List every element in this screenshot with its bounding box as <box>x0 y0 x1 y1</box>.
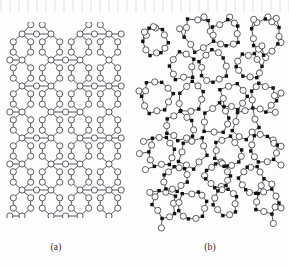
silicon-atom-node <box>174 78 177 81</box>
silicon-atom-node <box>212 39 215 42</box>
silicon-atom-node <box>264 17 267 20</box>
silicon-atom-node <box>178 92 181 95</box>
silicon-atom-node <box>150 203 153 206</box>
silicon-atom-node <box>250 27 253 30</box>
oxygen-atom-node <box>268 102 274 108</box>
oxygen-atom-node <box>19 57 25 63</box>
oxygen-atom-node <box>10 75 16 81</box>
oxygen-atom-node <box>48 187 54 193</box>
oxygen-atom-node <box>242 108 248 114</box>
silicon-atom-node <box>182 35 185 38</box>
oxygen-atom-node <box>278 205 284 211</box>
silicon-atom-node <box>160 81 163 84</box>
oxygen-atom-node <box>201 205 207 211</box>
oxygen-atom-node <box>86 205 92 211</box>
silicon-atom-node <box>147 27 150 30</box>
oxygen-atom-node <box>7 213 13 218</box>
oxygen-atom-node <box>86 195 92 201</box>
oxygen-atom-node <box>254 56 260 62</box>
oxygen-atom-node <box>259 43 265 49</box>
oxygen-atom-node <box>184 171 190 177</box>
oxygen-atom-node <box>189 64 195 70</box>
oxygen-atom-node <box>39 143 45 149</box>
silicon-atom-node <box>234 210 237 213</box>
oxygen-atom-node <box>257 106 263 112</box>
oxygen-atom-node <box>10 39 16 45</box>
oxygen-atom-node <box>68 91 74 97</box>
silicon-atom-node <box>177 160 180 163</box>
oxygen-atom-node <box>261 208 267 214</box>
oxygen-atom-node <box>229 162 235 168</box>
oxygen-atom-node <box>115 153 121 159</box>
oxygen-atom-node <box>57 127 63 133</box>
silicon-atom-node <box>253 134 256 137</box>
oxygen-atom-node <box>39 91 45 97</box>
oxygen-atom-node <box>39 75 45 81</box>
oxygen-atom-node <box>273 193 279 199</box>
silicon-atom-node <box>257 160 260 163</box>
silicon-atom-node <box>171 92 174 95</box>
oxygen-atom-node <box>68 49 74 55</box>
oxygen-atom-node <box>28 22 34 28</box>
oxygen-atom-node <box>28 91 34 97</box>
oxygen-atom-node <box>143 47 149 53</box>
silicon-atom-node <box>216 189 219 192</box>
silicon-atom-node <box>160 217 163 220</box>
oxygen-atom-node <box>150 24 156 30</box>
oxygen-atom-node <box>201 14 207 20</box>
oxygen-atom-node <box>161 32 167 38</box>
silicon-atom-node <box>201 90 204 93</box>
silicon-atom-node <box>257 126 260 129</box>
silicon-atom-node <box>246 95 249 98</box>
oxygen-atom-node <box>251 154 257 160</box>
oxygen-atom-node <box>170 71 176 77</box>
silicon-atom-node <box>236 41 239 44</box>
oxygen-atom-node <box>162 45 168 51</box>
oxygen-atom-node <box>62 109 68 115</box>
oxygen-atom-node <box>118 135 124 141</box>
silicon-atom-node <box>272 158 275 161</box>
oxygen-atom-node <box>115 169 121 175</box>
oxygen-atom-node <box>140 138 146 144</box>
oxygen-atom-node <box>33 31 39 37</box>
silicon-atom-node <box>165 132 168 135</box>
silicon-atom-node <box>159 51 162 54</box>
oxygen-atom-node <box>39 117 45 123</box>
oxygen-atom-node <box>106 57 112 63</box>
silicon-atom-node <box>251 106 254 109</box>
oxygen-atom-node <box>86 49 92 55</box>
silicon-atom-node <box>186 180 189 183</box>
silicon-atom-node <box>262 54 265 57</box>
oxygen-atom-node <box>201 119 207 125</box>
oxygen-atom-node <box>184 114 190 120</box>
silicon-atom-node <box>163 108 166 111</box>
oxygen-atom-node <box>251 16 257 22</box>
oxygen-atom-node <box>57 65 63 71</box>
oxygen-atom-node <box>219 137 225 143</box>
silicon-atom-node <box>249 149 252 152</box>
silicon-atom-node <box>240 148 243 151</box>
oxygen-atom-node <box>10 195 16 201</box>
oxygen-atom-node <box>158 225 164 231</box>
oxygen-atom-node <box>86 179 92 185</box>
oxygen-atom-node <box>33 135 39 141</box>
oxygen-atom-node <box>234 31 240 37</box>
silicon-atom-node <box>140 95 143 98</box>
oxygen-atom-node <box>118 187 124 193</box>
oxygen-atom-node <box>269 181 275 187</box>
silicon-atom-node <box>148 112 151 115</box>
oxygen-atom-node <box>97 143 103 149</box>
oxygen-atom-node <box>115 127 121 133</box>
oxygen-atom-node <box>28 195 34 201</box>
silicon-atom-node <box>257 81 260 84</box>
silicon-atom-node <box>153 165 156 168</box>
silicon-atom-node <box>201 136 204 139</box>
oxygen-atom-node <box>86 169 92 175</box>
oxygen-atom-node <box>179 149 185 155</box>
silicon-atom-node <box>226 18 229 21</box>
oxygen-atom-node <box>147 189 153 195</box>
oxygen-atom-node <box>199 96 205 102</box>
oxygen-atom-node <box>196 159 202 165</box>
oxygen-atom-node <box>115 101 121 107</box>
figure-root: (a) (b) <box>0 0 289 267</box>
